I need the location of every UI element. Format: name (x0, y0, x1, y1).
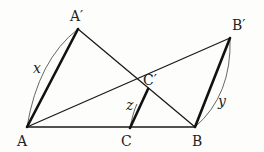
variable-y: y (217, 93, 227, 109)
label-a-prime: A′ (69, 8, 83, 24)
variable-x: x (33, 60, 41, 76)
variable-z: z (125, 97, 134, 113)
label-a: A (16, 133, 28, 149)
segment-a-a-prime (27, 29, 78, 127)
label-c: C (121, 133, 132, 149)
label-b-prime: B′ (232, 17, 245, 33)
geometry-diagram: A′ A C B C′ B′ x y z (0, 0, 264, 152)
label-b: B (192, 133, 202, 149)
label-c-prime: C′ (143, 72, 157, 88)
